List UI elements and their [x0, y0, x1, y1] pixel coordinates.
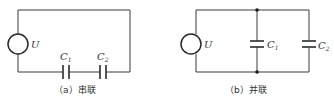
capacitor-c1-icon [63, 65, 69, 79]
capacitor-c2-label: C2 [318, 40, 330, 52]
capacitor-c2-label: C2 [97, 51, 109, 63]
parallel-wire-bottom [196, 48, 309, 72]
capacitor-c1-icon [250, 41, 264, 47]
junction-dot-top [255, 8, 259, 12]
parallel-caption: （b）并联 [225, 84, 267, 95]
parallel-circuit: U C1 C2 （b）并联 [181, 8, 330, 95]
voltage-source-icon [8, 34, 28, 54]
capacitor-c2-icon [302, 41, 316, 47]
source-label-U: U [204, 39, 213, 50]
source-label-U: U [31, 39, 40, 50]
series-circuit: U C1 C2 （a）串联 [8, 10, 130, 95]
series-caption: （a）串联 [54, 85, 96, 95]
parallel-wire-top [196, 10, 309, 40]
capacitor-c1-label: C1 [60, 51, 71, 63]
capacitor-c2-icon [100, 65, 106, 79]
voltage-source-icon [181, 34, 201, 54]
junction-dot-bottom [255, 70, 259, 74]
circuit-diagrams: U C1 C2 （a）串联 U [0, 0, 334, 103]
capacitor-c1-label: C1 [267, 39, 278, 51]
